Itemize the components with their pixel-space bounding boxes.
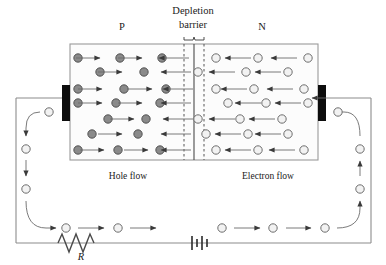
hole-particle (120, 85, 128, 93)
circuit-electron (356, 145, 364, 153)
circuit-electron (321, 224, 329, 232)
diagram-canvas: Depletion barrier P N Hole flow Electron… (0, 0, 386, 265)
circuit-electron (218, 224, 226, 232)
electron-particle (194, 68, 202, 76)
electron-particle (244, 130, 252, 138)
p-region-label: P (119, 21, 125, 32)
resistor-label: R (77, 251, 85, 262)
circuit-electron (114, 224, 122, 232)
circuit-electron (62, 224, 70, 232)
electron-particle (254, 54, 262, 62)
hole-particle (134, 130, 142, 138)
electron-particle (304, 99, 312, 107)
electron-particle (194, 115, 202, 123)
hole-flow-label: Hole flow (109, 171, 147, 181)
electron-flow-label: Electron flow (242, 171, 294, 181)
electron-particle (212, 54, 220, 62)
electron-particle (202, 130, 210, 138)
n-region-label: N (258, 21, 266, 32)
circuit-electron (45, 108, 53, 116)
circuit-electron (269, 224, 277, 232)
circuit-electron (356, 185, 364, 193)
hole-particle (140, 68, 148, 76)
electron-particle (278, 115, 286, 123)
electron-particle (262, 99, 270, 107)
electron-particle (254, 146, 262, 154)
electrode-anode (62, 85, 70, 121)
electron-particle (300, 146, 308, 154)
electron-particle (284, 68, 292, 76)
electron-particle (242, 68, 250, 76)
electron-particle (300, 85, 308, 93)
depletion-barrier-label-line1: Depletion (172, 5, 214, 16)
depletion-brace (184, 37, 204, 40)
circuit-electron (22, 145, 30, 153)
electron-particle (212, 85, 220, 93)
electrode-cathode (318, 85, 326, 121)
depletion-barrier-label-line2: barrier (179, 19, 207, 30)
electron-particle (224, 99, 232, 107)
circuit-electron (334, 108, 342, 116)
electron-particle (284, 130, 292, 138)
pn-junction-forward-bias-diagram: Depletion barrier P N Hole flow Electron… (0, 0, 386, 265)
electron-particle (212, 146, 220, 154)
hole-particle (142, 115, 150, 123)
hole-particle (114, 146, 122, 154)
circuit-electron (22, 185, 30, 193)
circuit-flow-arrow (26, 112, 40, 136)
electron-particle (236, 115, 244, 123)
electron-particle (304, 54, 312, 62)
circuit-flow-arrow (337, 201, 360, 228)
electron-particle (250, 85, 258, 93)
hole-particle (88, 130, 96, 138)
circuit-flow-arrow (26, 201, 56, 228)
